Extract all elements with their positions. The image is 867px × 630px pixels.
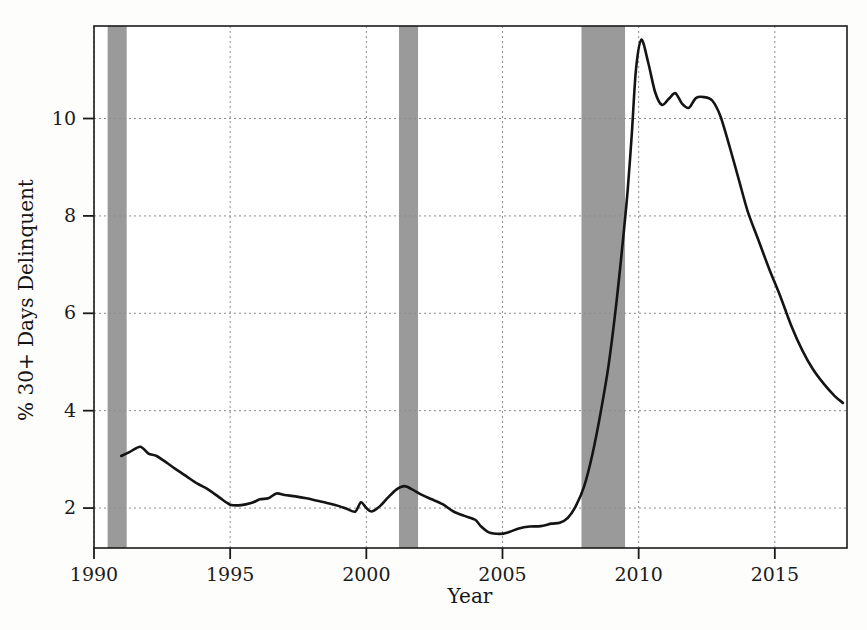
x-axis-tick-label: 2005 <box>478 563 526 585</box>
x-axis-tick-label: 2010 <box>614 563 662 585</box>
x-axis-tick-label: 1990 <box>70 563 118 585</box>
y-axis-tick-label: 6 <box>64 301 76 323</box>
x-axis-tick-label: 2000 <box>342 563 390 585</box>
y-axis-tick-group: 246810 <box>52 107 94 519</box>
x-axis-tick-label: 2015 <box>751 563 799 585</box>
plot-background <box>94 26 847 548</box>
chart-figure: 199019952000200520102015 246810 Year % 3… <box>0 0 867 630</box>
recession-band <box>108 26 127 548</box>
x-axis-tick-group: 199019952000200520102015 <box>70 548 799 585</box>
y-axis-tick-label: 10 <box>52 107 76 129</box>
x-axis-tick-label: 1995 <box>206 563 254 585</box>
y-axis-tick-label: 4 <box>64 399 76 421</box>
x-axis-title: Year <box>447 584 493 608</box>
delinquency-line-chart: 199019952000200520102015 246810 Year % 3… <box>0 0 867 630</box>
y-axis-title: % 30+ Days Delinquent <box>14 179 38 421</box>
y-axis-tick-label: 8 <box>64 204 76 226</box>
y-axis-tick-label: 2 <box>64 496 76 518</box>
recession-band <box>399 26 418 548</box>
